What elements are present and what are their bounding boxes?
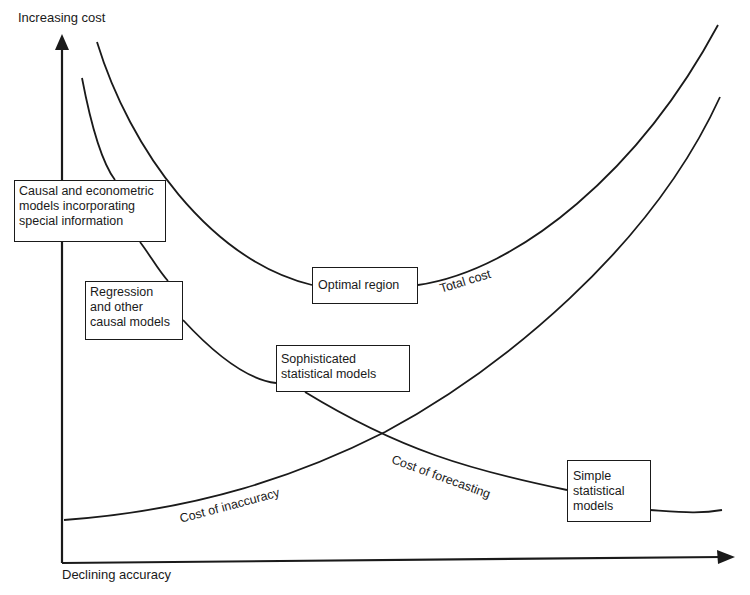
box-line: causal models <box>90 315 178 330</box>
box-line: models incorporating <box>19 199 161 214</box>
box-line: Regression <box>90 285 178 300</box>
box-line: special information <box>19 214 161 229</box>
box-line: and other <box>90 300 178 315</box>
x-axis-arrowhead-icon <box>717 550 735 564</box>
simple-statistical-models-box: Simple statistical models <box>567 460 651 522</box>
box-line: Sophisticated <box>281 352 405 367</box>
regression-models-box: Regression and other causal models <box>85 281 183 340</box>
box-line: Optimal region <box>318 278 413 293</box>
optimal-region-box: Optimal region <box>312 267 418 304</box>
box-line: models <box>573 499 646 514</box>
box-line: Causal and econometric <box>19 184 161 199</box>
box-line: statistical models <box>281 367 405 382</box>
total-cost-curve <box>97 25 718 285</box>
x-axis <box>62 557 722 563</box>
y-axis-arrowhead-icon <box>55 34 69 50</box>
x-axis-label: Declining accuracy <box>62 567 171 582</box>
causal-econometric-models-box: Causal and econometric models incorporat… <box>14 180 166 242</box>
sophisticated-statistical-models-box: Sophisticated statistical models <box>276 345 410 392</box>
box-line: statistical <box>573 484 646 499</box>
y-axis-label: Increasing cost <box>18 10 105 25</box>
box-line: Simple <box>573 469 646 484</box>
